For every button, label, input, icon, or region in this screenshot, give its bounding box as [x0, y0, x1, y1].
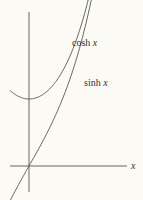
sinh-label: sinh x: [84, 77, 108, 88]
sinh-curve: [10, 0, 126, 200]
x-axis-label: x: [130, 160, 136, 171]
chart: x cosh xsinh x: [0, 0, 143, 200]
cosh-label: cosh x: [72, 37, 98, 48]
